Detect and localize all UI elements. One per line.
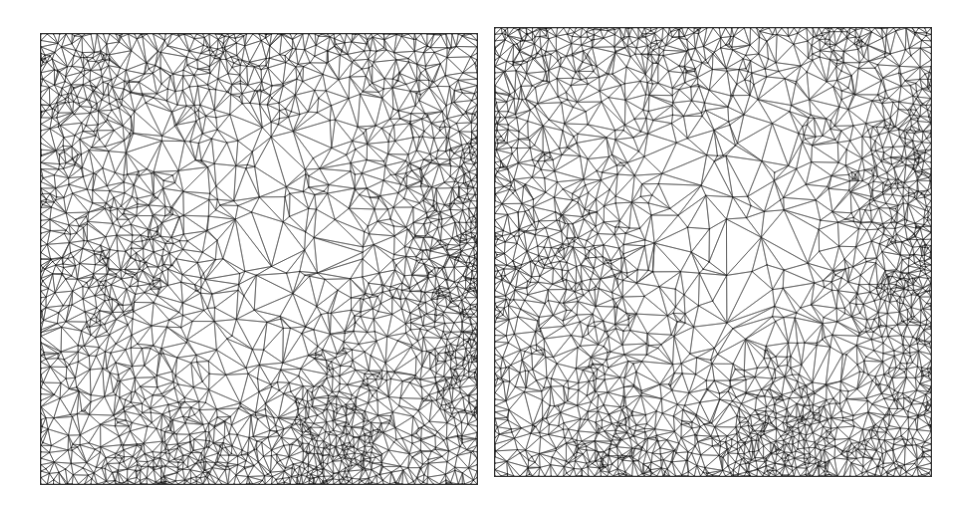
triangular-mesh-left — [41, 34, 477, 484]
mesh-panel-right: Mesh B — [494, 27, 932, 477]
mesh-panel-left: Mesh A — [40, 33, 478, 485]
triangular-mesh-right — [495, 28, 931, 476]
